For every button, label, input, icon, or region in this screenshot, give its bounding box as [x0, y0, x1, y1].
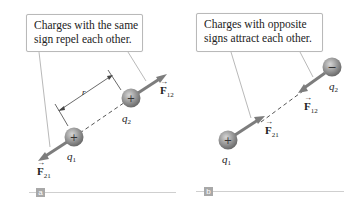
- callout-pointer: [39, 52, 50, 147]
- panel-b-attraction: + − Charges with opposite signs attract …: [180, 0, 359, 208]
- force-12-arrow: [138, 78, 161, 93]
- vector-arrow-icon: →: [160, 77, 168, 86]
- callout-pointer: [300, 52, 313, 77]
- callout-pointer: [231, 52, 251, 118]
- minus-sign-icon: −: [327, 61, 336, 74]
- plus-sign-icon: +: [127, 93, 135, 104]
- force-21-arrow: [235, 120, 258, 135]
- force-21-arrow: [44, 142, 67, 157]
- charge-label-q1: q1: [67, 150, 76, 164]
- vector-arrow-icon: →: [37, 158, 45, 167]
- charge-subscript: 2: [335, 86, 339, 94]
- callout-line: Charges with the same: [34, 18, 136, 32]
- charge-subscript: 2: [128, 118, 132, 126]
- callout-line: signs attract each other.: [204, 31, 316, 45]
- dimension-tick: [55, 104, 61, 114]
- force-label-f21: →F21: [37, 165, 51, 177]
- dimension-tick: [108, 70, 121, 90]
- force-subscript: 12: [167, 91, 174, 99]
- panel-tag-b: b: [204, 187, 213, 196]
- callout-pointer: [128, 52, 146, 81]
- force-label-f12: →F12: [304, 100, 318, 112]
- callout-box: Charges with opposite signs attract each…: [196, 13, 323, 52]
- charge-subscript: 1: [228, 159, 232, 167]
- panel-divider: [196, 191, 344, 192]
- force-subscript: 21: [44, 172, 51, 180]
- callout-box: Charges with the same sign repel each ot…: [26, 14, 143, 52]
- vector-arrow-icon: →: [304, 93, 312, 102]
- charge-label-q2: q2: [329, 80, 338, 94]
- charge-label-q1: q1: [222, 153, 231, 167]
- charge-label-q2: q2: [122, 112, 131, 126]
- vector-arrow-icon: →: [265, 117, 273, 126]
- force-subscript: 12: [311, 107, 318, 115]
- force-12-arrow: [304, 73, 325, 88]
- callout-line: Charges with opposite: [204, 17, 316, 31]
- distance-label: r: [82, 87, 86, 97]
- panel-divider: [29, 192, 176, 193]
- panel-a-repulsion: + + Charges with the same sign repel eac…: [0, 0, 180, 208]
- plus-sign-icon: +: [70, 132, 78, 143]
- plus-sign-icon: +: [224, 135, 232, 146]
- charge-subscript: 1: [73, 156, 77, 164]
- callout-line: sign repel each other.: [34, 32, 136, 46]
- force-label-f21: →F21: [265, 124, 279, 136]
- force-subscript: 21: [272, 131, 279, 139]
- panel-tag-a: a: [36, 188, 45, 197]
- force-label-f12: →F12: [160, 84, 174, 96]
